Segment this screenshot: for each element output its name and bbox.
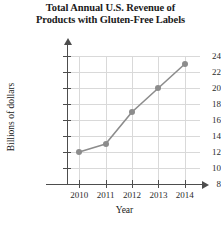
chart-container: Total Annual U.S. Revenue of Products wi…: [0, 0, 221, 227]
x-axis-tick: [185, 180, 186, 188]
y-axis-tick-label: 16: [163, 116, 221, 125]
y-axis-tick-label: 24: [163, 52, 221, 61]
gridline-vertical: [158, 56, 159, 184]
chart-title-line-1: Total Annual U.S. Revenue of: [0, 2, 221, 14]
data-point-marker: [182, 61, 188, 67]
x-axis-tick: [132, 180, 133, 188]
gridline-vertical: [79, 56, 80, 184]
gridline-vertical: [132, 56, 133, 184]
y-axis-tick: [63, 72, 71, 73]
y-axis-tick-label: 14: [163, 132, 221, 141]
x-axis-title: Year: [46, 205, 203, 215]
x-axis-tick: [79, 180, 80, 188]
y-axis-tick-label: 18: [163, 100, 221, 109]
data-point-marker: [103, 141, 109, 147]
y-axis-tick-label: 22: [163, 68, 221, 77]
x-axis-tick: [106, 180, 107, 188]
x-axis-tick-label: 2014: [168, 190, 202, 200]
chart-title: Total Annual U.S. Revenue of Products wi…: [0, 2, 221, 26]
y-axis-arrow-icon: [64, 38, 72, 45]
y-axis-tick: [63, 104, 71, 105]
chart-title-line-2: Products with Gluten-Free Labels: [0, 14, 221, 26]
y-axis-tick-label: 10: [163, 164, 221, 173]
y-axis-title: Billions of dollars: [6, 57, 16, 177]
y-axis-tick-label: 20: [163, 84, 221, 93]
y-axis-tick: [63, 120, 71, 121]
data-point-marker: [129, 109, 135, 115]
y-axis-tick: [63, 88, 71, 89]
x-axis-tick: [158, 180, 159, 188]
y-axis-tick: [63, 184, 71, 185]
y-axis-tick: [63, 56, 71, 57]
y-axis-line: [67, 44, 68, 185]
gridline-vertical: [106, 56, 107, 184]
y-axis-tick: [63, 152, 71, 153]
y-axis-tick-label: 8: [163, 180, 221, 189]
y-axis-tick: [63, 136, 71, 137]
y-axis-tick-label: 12: [163, 148, 221, 157]
y-axis-tick: [63, 168, 71, 169]
